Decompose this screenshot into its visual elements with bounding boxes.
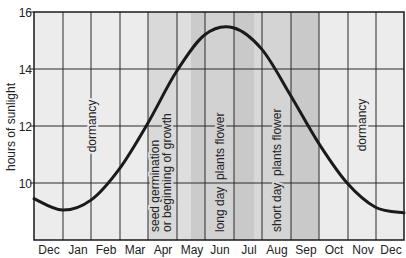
x-label-nov: Nov	[352, 243, 373, 257]
x-label-jan: Jan	[68, 243, 87, 257]
x-label-may: May	[181, 243, 204, 257]
annotation-short-day: short day plants flower	[270, 109, 284, 232]
x-label-oct: Oct	[325, 243, 344, 257]
x-label-dec: Dec	[38, 243, 59, 257]
x-label-apr: Apr	[154, 243, 173, 257]
y-axis: 10 12 14 16 hours of sunlight	[4, 6, 34, 191]
x-label-mar: Mar	[125, 243, 146, 257]
annotation-long-day: long day plants flower	[213, 113, 227, 232]
x-label-aug: Aug	[266, 243, 287, 257]
y-axis-label: hours of sunlight	[4, 82, 18, 171]
sunlight-chart: dormancy seed germination or beginning o…	[0, 0, 406, 258]
y-tick-12: 12	[19, 120, 33, 134]
x-label-jun: Jun	[210, 243, 229, 257]
x-axis: Dec Jan Feb Mar Apr May Jun Jul Aug Sep …	[38, 243, 401, 257]
x-label-feb: Feb	[96, 243, 117, 257]
x-label-sep: Sep	[295, 243, 317, 257]
annotation-dormancy-right: dormancy	[355, 99, 369, 152]
y-tick-10: 10	[19, 177, 33, 191]
annotation-beginning-of-growth: or beginning of growth	[160, 113, 174, 232]
annotation-dormancy-left: dormancy	[85, 100, 99, 153]
y-tick-16: 16	[19, 6, 33, 20]
x-label-dec-end: Dec	[380, 243, 401, 257]
x-label-jul: Jul	[241, 243, 256, 257]
y-tick-14: 14	[19, 63, 33, 77]
